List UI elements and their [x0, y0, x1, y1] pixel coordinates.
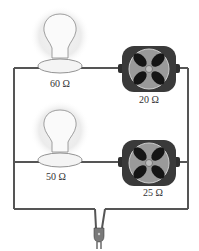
bulb-1: 60 Ω [30, 6, 90, 89]
plug-icon [94, 228, 104, 249]
fan-2-label: 25 Ω [143, 187, 163, 198]
fan-1-label: 20 Ω [139, 94, 159, 105]
fan-2: 25 Ω [118, 140, 180, 198]
bulb-2: 50 Ω [30, 100, 90, 182]
bulb-1-label: 60 Ω [50, 78, 70, 89]
bulb-2-label: 50 Ω [46, 171, 66, 182]
wire-plug-cord [95, 209, 105, 228]
fan-1: 20 Ω [118, 46, 180, 105]
bulb-base [38, 153, 82, 167]
bulb-base [38, 59, 82, 73]
circuit-diagram: 60 Ω 20 Ω 50 Ω 25 [0, 0, 199, 251]
